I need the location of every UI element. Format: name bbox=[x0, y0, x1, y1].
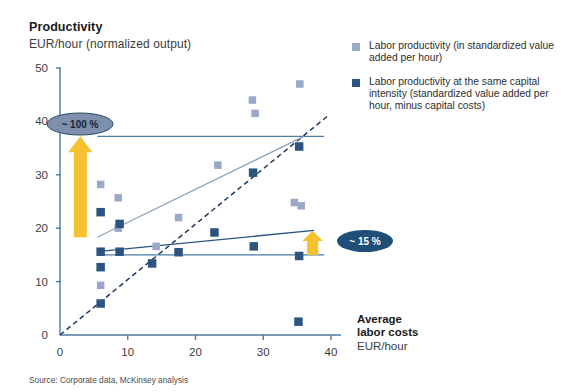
legend-label-labor-productivity: Labor productivity (in standardized valu… bbox=[369, 40, 567, 65]
data-point-light bbox=[249, 96, 257, 104]
data-point-light bbox=[152, 243, 160, 251]
source-note: Source: Corporate data, McKinsey analysi… bbox=[29, 375, 188, 385]
y-tick-label: 20 bbox=[35, 222, 48, 234]
light-trend bbox=[97, 136, 304, 237]
x-tick-label: 20 bbox=[189, 346, 202, 358]
x-axis-title-line2: labor costs bbox=[357, 326, 418, 339]
gap-upper-label: ~ 100 % bbox=[62, 119, 99, 130]
data-point-dark bbox=[249, 168, 258, 177]
data-point-dark bbox=[96, 299, 105, 308]
chart-legend: Labor productivity (in standardized valu… bbox=[352, 40, 567, 123]
data-point-light bbox=[97, 181, 105, 189]
data-point-dark bbox=[210, 228, 219, 237]
legend-item-light: Labor productivity (in standardized valu… bbox=[352, 40, 567, 65]
data-point-light bbox=[291, 199, 299, 207]
x-tick-label: 10 bbox=[121, 346, 134, 358]
data-point-light bbox=[296, 80, 304, 88]
data-point-light bbox=[297, 202, 305, 210]
gap-lower-label: ~ 15 % bbox=[349, 236, 381, 247]
data-point-dark bbox=[96, 247, 105, 256]
data-point-dark bbox=[96, 263, 105, 272]
gap-upper-badge: ~ 100 % bbox=[47, 113, 113, 135]
y-tick-label: 30 bbox=[35, 169, 48, 181]
gap-arrows-group bbox=[68, 136, 323, 255]
x-tick-label: 30 bbox=[257, 346, 270, 358]
gap-lower-badge: ~ 15 % bbox=[337, 230, 393, 252]
data-point-light bbox=[214, 161, 222, 169]
legend-swatch-same-capital-intensity bbox=[352, 79, 360, 87]
dark-trend bbox=[97, 230, 314, 251]
data-point-light bbox=[175, 214, 183, 222]
legend-label-same-capital-intensity: Labor productivity at the same capital i… bbox=[369, 76, 567, 113]
data-point-dark bbox=[148, 259, 157, 268]
data-point-dark bbox=[250, 242, 259, 251]
upper-gap-arrow bbox=[68, 136, 92, 237]
x-axis-title: Average labor costs EUR/hour bbox=[357, 313, 418, 353]
y-tick-label: 40 bbox=[35, 115, 48, 127]
trend-lines-group bbox=[97, 136, 314, 251]
reference-lines-group bbox=[97, 136, 324, 255]
data-point-dark bbox=[115, 247, 124, 256]
y-tick-label: 10 bbox=[35, 276, 48, 288]
legend-item-dark: Labor productivity at the same capital i… bbox=[352, 76, 567, 113]
data-point-dark bbox=[295, 142, 304, 151]
data-point-light bbox=[251, 110, 259, 118]
legend-swatch-labor-productivity bbox=[352, 43, 360, 51]
data-point-dark bbox=[174, 248, 183, 256]
y-tick-label: 0 bbox=[42, 329, 48, 341]
data-point-dark bbox=[294, 317, 303, 326]
x-axis-title-line1: Average bbox=[357, 313, 418, 326]
lower-gap-arrow bbox=[302, 231, 323, 255]
x-axis-title-units: EUR/hour bbox=[357, 339, 418, 353]
data-point-light bbox=[97, 282, 105, 290]
data-points-group bbox=[96, 80, 305, 326]
x-tick-label: 0 bbox=[57, 346, 63, 358]
data-point-dark bbox=[115, 220, 124, 229]
data-point-dark bbox=[96, 208, 105, 217]
y-tick-label: 50 bbox=[35, 62, 48, 74]
x-tick-label: 40 bbox=[325, 346, 338, 358]
data-point-light bbox=[115, 194, 123, 202]
data-point-dark bbox=[295, 252, 304, 261]
chart-root: Productivity EUR/hour (normalized output… bbox=[0, 0, 573, 392]
